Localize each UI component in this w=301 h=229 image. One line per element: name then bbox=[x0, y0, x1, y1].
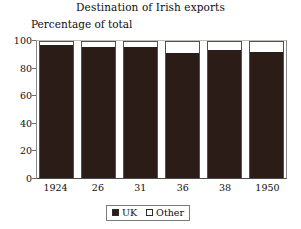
y-tick-label: 60 bbox=[20, 90, 32, 101]
stacked-bar[interactable] bbox=[81, 41, 116, 178]
x-tick-label: 26 bbox=[80, 180, 115, 193]
bar-group[interactable] bbox=[207, 41, 242, 178]
chart-figure: Destination of Irish exports Percentage … bbox=[0, 0, 301, 229]
bar-group[interactable] bbox=[165, 41, 200, 178]
bar-segment-uk bbox=[40, 45, 73, 178]
chart-title: Destination of Irish exports bbox=[0, 1, 301, 13]
bar-group[interactable] bbox=[249, 41, 284, 178]
bar-group[interactable] bbox=[39, 41, 74, 178]
bar-segment-uk bbox=[82, 47, 115, 178]
open-square-icon bbox=[146, 209, 153, 216]
x-axis: 1924 26 31 36 38 1950 bbox=[36, 180, 287, 198]
bar-segment-uk bbox=[124, 47, 157, 178]
y-axis-subtitle: Percentage of total bbox=[31, 18, 132, 30]
y-tick-label: 100 bbox=[14, 35, 32, 46]
x-tick-label: 36 bbox=[165, 180, 200, 193]
stacked-bar[interactable] bbox=[249, 41, 284, 178]
bar-segment-other bbox=[166, 42, 199, 53]
x-tick-label: 31 bbox=[123, 180, 158, 193]
bar-group[interactable] bbox=[123, 41, 158, 178]
y-axis: 100 80 60 40 20 0 bbox=[0, 34, 36, 186]
x-tick-label: 1924 bbox=[38, 180, 73, 193]
bar-series-group bbox=[37, 41, 286, 178]
x-tick-label: 38 bbox=[208, 180, 243, 193]
bar-segment-uk bbox=[208, 50, 241, 178]
y-tick-label: 20 bbox=[20, 145, 32, 156]
plot-area bbox=[36, 40, 287, 179]
chart-legend: UK Other bbox=[106, 205, 190, 221]
y-tick-label: 80 bbox=[20, 62, 32, 73]
stacked-bar[interactable] bbox=[123, 41, 158, 178]
stacked-bar[interactable] bbox=[207, 41, 242, 178]
bar-segment-other bbox=[208, 42, 241, 50]
bar-segment-uk bbox=[166, 53, 199, 178]
stacked-bar[interactable] bbox=[39, 41, 74, 178]
legend-label: UK bbox=[122, 207, 137, 218]
legend-entry-uk[interactable]: UK bbox=[112, 207, 137, 218]
y-tick-label: 40 bbox=[20, 117, 32, 128]
filled-square-icon bbox=[112, 209, 119, 216]
legend-entry-other[interactable]: Other bbox=[146, 207, 184, 218]
stacked-bar[interactable] bbox=[165, 41, 200, 178]
x-tick-label: 1950 bbox=[250, 180, 285, 193]
legend-label: Other bbox=[156, 207, 184, 218]
bar-group[interactable] bbox=[81, 41, 116, 178]
bar-segment-other bbox=[250, 42, 283, 52]
bar-segment-uk bbox=[250, 52, 283, 178]
